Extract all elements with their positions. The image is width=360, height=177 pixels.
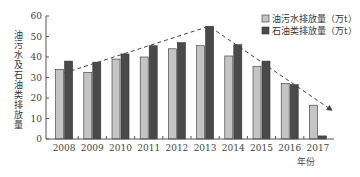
bar <box>253 66 261 139</box>
bar <box>93 62 101 139</box>
bar <box>262 61 270 139</box>
y-tick-label: 20 <box>31 93 43 103</box>
bar <box>177 43 185 139</box>
x-tick-label: 2015 <box>250 143 273 153</box>
bar <box>140 57 148 139</box>
bar <box>281 84 289 139</box>
bar <box>309 105 317 139</box>
bar <box>149 46 157 139</box>
bar <box>206 26 214 139</box>
bar <box>121 54 129 139</box>
bars <box>56 26 327 139</box>
y-tick-label: 10 <box>31 114 43 124</box>
x-tick-label: 2009 <box>81 143 104 153</box>
x-tick-label: 2008 <box>53 143 76 153</box>
bar <box>225 56 233 139</box>
x-tick-label: 2012 <box>165 143 188 153</box>
legend-label: 石油类排放量（万t） <box>272 25 357 36</box>
legend: 油污水排放量（万t）石油类排放量（万t） <box>262 13 357 36</box>
x-tick-label: 2013 <box>194 143 217 153</box>
x-tick-label: 2016 <box>278 143 301 153</box>
x-tick-label: 2017 <box>306 143 329 153</box>
legend-label: 油污水排放量（万t） <box>272 13 357 24</box>
x-axis-label: 年份 <box>297 156 315 167</box>
bar <box>197 46 205 139</box>
bar <box>112 59 120 139</box>
bar-chart: 0102030405060 20082009201020112012201320… <box>0 0 360 177</box>
y-tick-label: 40 <box>31 52 43 62</box>
x-tick-label: 2010 <box>109 143 132 153</box>
x-axis: 2008200920102011201220132014201520162017 <box>46 136 334 153</box>
bar <box>234 45 242 139</box>
y-tick-label: 60 <box>31 11 43 21</box>
y-tick-label: 30 <box>31 73 43 83</box>
bar <box>168 49 176 139</box>
y-tick-label: 50 <box>31 32 43 42</box>
x-tick-label: 2014 <box>222 143 245 153</box>
bar <box>56 69 64 139</box>
bar <box>290 85 298 139</box>
y-axis: 0102030405060 <box>31 11 49 144</box>
bar <box>84 72 92 139</box>
y-axis-label: 油污水及石油类排放量 <box>14 29 23 130</box>
y-tick-label: 0 <box>36 134 42 144</box>
x-tick-label: 2011 <box>137 143 160 153</box>
